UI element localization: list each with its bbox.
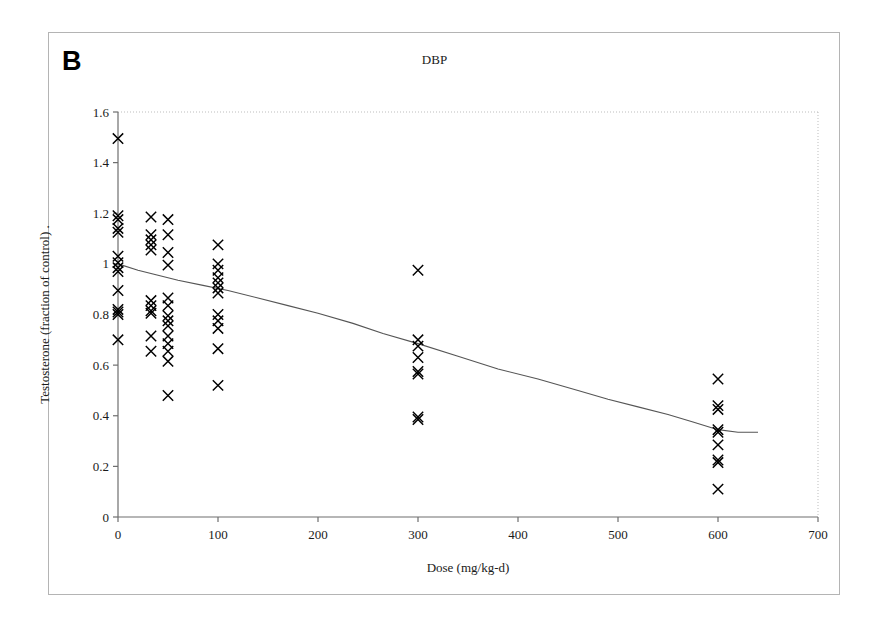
data-point-marker	[163, 356, 173, 366]
figure-root: B DBP 00.20.40.60.811.21.41.601002003004…	[0, 0, 885, 627]
data-point-marker	[163, 247, 173, 257]
data-point-marker	[146, 306, 156, 316]
data-point-marker	[163, 311, 173, 321]
data-point-marker	[413, 366, 423, 376]
data-point-marker	[163, 260, 173, 270]
data-point-marker	[413, 369, 423, 379]
data-point-marker	[213, 380, 223, 390]
data-point-marker	[713, 374, 723, 384]
data-point-marker	[146, 245, 156, 255]
data-point-marker	[163, 346, 173, 356]
data-point-marker	[413, 352, 423, 362]
data-point-marker	[213, 288, 223, 298]
y-axis-tick-label: 0	[103, 510, 110, 525]
y-axis-title: Testosterone (fraction of control) .	[37, 225, 52, 404]
data-point-marker	[713, 457, 723, 467]
x-axis-tick-label: 200	[308, 527, 328, 542]
data-point-marker	[146, 212, 156, 222]
data-point-marker	[163, 214, 173, 224]
data-point-marker	[213, 343, 223, 353]
y-axis-tick-label: 1.6	[93, 105, 110, 120]
data-point-marker	[413, 412, 423, 422]
y-axis-tick-label: 0.2	[93, 459, 109, 474]
data-point-marker	[146, 240, 156, 250]
data-point-marker	[413, 414, 423, 424]
data-point-marker	[163, 230, 173, 240]
x-axis-tick-label: 700	[808, 527, 828, 542]
data-point-marker	[213, 240, 223, 250]
data-point-marker	[163, 390, 173, 400]
y-axis-tick-label: 0.8	[93, 307, 109, 322]
scatter-series	[113, 133, 723, 494]
data-point-marker	[146, 308, 156, 318]
data-point-marker	[146, 346, 156, 356]
data-point-marker	[146, 235, 156, 245]
data-point-marker	[413, 265, 423, 275]
scatter-plot-canvas: 00.20.40.60.811.21.41.601002003004005006…	[0, 0, 885, 627]
x-axis-tick-label: 0	[115, 527, 122, 542]
y-axis-tick-label: 1.2	[93, 206, 109, 221]
data-point-marker	[146, 331, 156, 341]
x-axis-tick-label: 100	[208, 527, 228, 542]
y-axis-tick-label: 1.4	[93, 155, 110, 170]
data-point-marker	[163, 316, 173, 326]
y-axis-tick-label: 0.6	[93, 358, 110, 373]
data-point-marker	[713, 440, 723, 450]
data-point-marker	[713, 484, 723, 494]
data-point-marker	[713, 455, 723, 465]
x-axis-tick-label: 300	[408, 527, 428, 542]
data-point-marker	[413, 341, 423, 351]
y-axis-tick-label: 1	[103, 256, 110, 271]
x-axis-tick-label: 600	[708, 527, 728, 542]
data-point-marker	[146, 230, 156, 240]
data-point-marker	[713, 427, 723, 437]
y-axis-tick-label: 0.4	[93, 408, 110, 423]
data-point-marker	[213, 273, 223, 283]
data-point-marker	[213, 323, 223, 333]
x-axis-title: Dose (mg/kg-d)	[427, 560, 510, 575]
data-point-marker	[163, 321, 173, 331]
data-point-marker	[213, 278, 223, 288]
data-point-marker	[146, 295, 156, 305]
x-axis-tick-label: 500	[608, 527, 628, 542]
x-axis-tick-label: 400	[508, 527, 528, 542]
data-point-marker	[163, 300, 173, 310]
